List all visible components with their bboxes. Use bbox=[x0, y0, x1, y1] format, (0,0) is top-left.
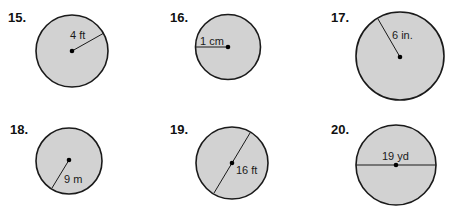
measure-label: 1 cm bbox=[200, 35, 224, 47]
center-dot bbox=[67, 158, 72, 163]
problem-number: 18. bbox=[10, 122, 28, 137]
problem-20: 20. 19 yd bbox=[331, 122, 436, 205]
problem-number: 20. bbox=[331, 122, 349, 137]
problem-17: 17. 6 in. bbox=[331, 10, 444, 100]
measure-label: 6 in. bbox=[392, 29, 413, 41]
measure-label: 19 yd bbox=[382, 150, 409, 162]
measure-label: 4 ft bbox=[70, 29, 85, 41]
problem-number: 19. bbox=[170, 122, 188, 137]
center-dot bbox=[230, 161, 235, 166]
problem-number: 17. bbox=[331, 10, 349, 25]
problem-16: 16. 1 cm bbox=[170, 10, 261, 80]
measure-label: 9 m bbox=[64, 173, 82, 185]
circle-exercises: 15. 4 ft 16. 1 cm 17. 6 in. 18. 9 m 19. … bbox=[0, 0, 463, 212]
center-dot bbox=[394, 163, 399, 168]
problem-number: 15. bbox=[8, 10, 26, 25]
center-dot bbox=[398, 55, 403, 60]
problem-number: 16. bbox=[170, 10, 188, 25]
center-dot bbox=[226, 45, 231, 50]
problem-15: 15. 4 ft bbox=[8, 10, 108, 87]
measure-label: 16 ft bbox=[236, 164, 257, 176]
problem-19: 19. 16 ft bbox=[170, 122, 268, 199]
problem-18: 18. 9 m bbox=[10, 122, 102, 194]
center-dot bbox=[70, 49, 75, 54]
